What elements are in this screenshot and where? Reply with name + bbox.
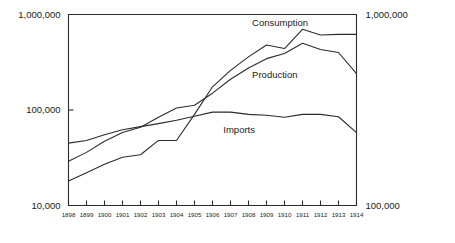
- y-axis-label-right-100000: 100,000: [366, 200, 400, 211]
- x-axis-label-1900: 1900: [98, 211, 112, 218]
- x-axis-label-1912: 1912: [314, 211, 328, 218]
- y-axis-label-left-1000000: 1,000,000: [18, 9, 60, 20]
- series-line-production: [69, 43, 357, 161]
- x-axis-label-1901: 1901: [116, 211, 130, 218]
- series-line-consumption: [69, 29, 357, 181]
- y-axis-labels-left: 1,000,000100,00010,000: [18, 9, 60, 211]
- x-axis-label-1911: 1911: [296, 211, 310, 218]
- x-axis-label-1906: 1906: [206, 211, 220, 218]
- series-label-production: Production: [252, 69, 297, 80]
- y-axis-labels-right: 1,000,000100,000: [366, 9, 408, 211]
- series-label-imports: Imports: [223, 124, 255, 135]
- chart-series-lines: [69, 29, 357, 181]
- line-chart: 1,000,000100,00010,000 1,000,000100,000 …: [0, 0, 455, 243]
- series-line-imports: [69, 112, 357, 143]
- x-axis-label-1907: 1907: [224, 211, 238, 218]
- x-axis-label-1904: 1904: [170, 211, 184, 218]
- x-axis-label-1905: 1905: [188, 211, 202, 218]
- x-axis-label-1902: 1902: [134, 211, 148, 218]
- y-axis-label-left-100000: 100,000: [26, 104, 60, 115]
- x-axis-label-1908: 1908: [242, 211, 256, 218]
- chart-tick-marks: [69, 110, 357, 206]
- y-axis-label-left-10000: 10,000: [31, 200, 60, 211]
- plot-frame: [69, 15, 357, 206]
- series-label-consumption: Consumption: [252, 17, 308, 28]
- x-axis-label-1903: 1903: [152, 211, 166, 218]
- y-axis-label-right-1000000: 1,000,000: [366, 9, 408, 20]
- chart-axes: [69, 15, 357, 206]
- x-axis-label-1909: 1909: [260, 211, 274, 218]
- x-axis-label-1899: 1899: [80, 211, 94, 218]
- x-axis-label-1913: 1913: [332, 211, 346, 218]
- x-axis-labels: 1898189919001901190219031904190519061907…: [62, 211, 364, 218]
- x-axis-label-1898: 1898: [62, 211, 76, 218]
- x-axis-label-1910: 1910: [278, 211, 292, 218]
- chart-container: 1,000,000100,00010,000 1,000,000100,000 …: [0, 0, 455, 243]
- x-axis-label-1914: 1914: [350, 211, 364, 218]
